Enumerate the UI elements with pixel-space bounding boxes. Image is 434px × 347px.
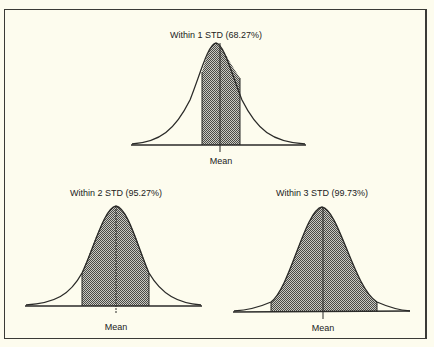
chart-1-mean-label: Mean: [210, 156, 233, 166]
chart-3-title: Within 3 STD (99.73%): [276, 188, 368, 198]
chart-3-mean-label: Mean: [312, 323, 335, 333]
chart-within-2-std: Within 2 STD (95.27%) Mean: [25, 188, 202, 332]
chart-2-mean-label: Mean: [105, 322, 128, 332]
chart-within-1-std: Within 1 STD (68.27%) Mean: [131, 30, 306, 166]
chart-within-3-std: Within 3 STD (99.73%) Mean: [233, 188, 410, 333]
chart-1-title: Within 1 STD (68.27%): [170, 30, 262, 40]
chart-2-title: Within 2 STD (95.27%): [70, 188, 162, 198]
normal-distribution-diagrams: Within 1 STD (68.27%) Mean Within 2 STD …: [0, 0, 434, 347]
